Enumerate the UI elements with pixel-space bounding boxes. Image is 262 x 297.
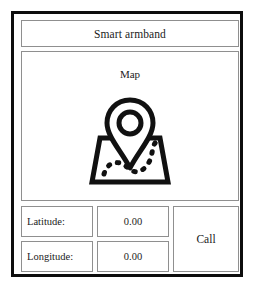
map-panel[interactable]: Map	[21, 51, 239, 201]
latitude-row: Latitude: 0.00	[21, 206, 169, 237]
longitude-row: Longitude: 0.00	[21, 241, 169, 272]
page-title: Smart armband	[94, 28, 166, 40]
longitude-label: Longitude:	[21, 241, 93, 272]
call-button[interactable]: Call	[173, 206, 239, 272]
map-pin-icon	[82, 94, 178, 188]
longitude-value: 0.00	[97, 241, 169, 272]
title-bar: Smart armband	[21, 20, 239, 47]
latitude-label: Latitude:	[21, 206, 93, 237]
latitude-value: 0.00	[97, 206, 169, 237]
bottom-control-row: Latitude: 0.00 Longitude: 0.00 Call	[21, 206, 239, 272]
screenshot-canvas: Smart armband Map	[0, 0, 262, 297]
coordinate-fields: Latitude: 0.00 Longitude: 0.00	[21, 206, 169, 272]
smart-armband-device-frame: Smart armband Map	[11, 11, 243, 277]
device-screen: Smart armband Map	[18, 18, 236, 270]
map-panel-label: Map	[22, 68, 238, 80]
